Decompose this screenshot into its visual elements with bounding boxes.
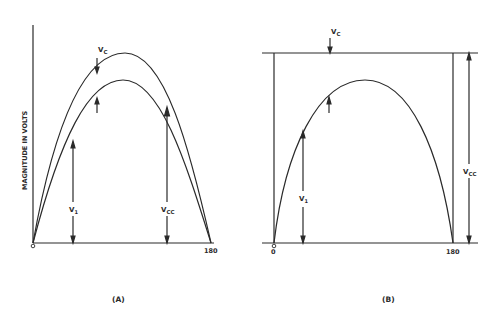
panel-a-gap-arrowhead bbox=[95, 98, 99, 104]
panel-a-vcc-arrowhead-top bbox=[165, 107, 170, 116]
panel-b-vc-arrowhead bbox=[328, 47, 332, 53]
panel-a-v1-arrowhead-bottom bbox=[71, 236, 75, 243]
panel-b-x-tick-0: 0 bbox=[271, 248, 276, 256]
panel-b-caption: (B) bbox=[382, 295, 395, 304]
panel-b bbox=[262, 38, 478, 248]
panel-a-vc-label: VC bbox=[98, 46, 107, 55]
panel-b-vc-label: VC bbox=[331, 28, 340, 37]
panel-a-x-tick-180: 180 bbox=[204, 247, 218, 255]
panel-b-v1-arrowhead-bottom bbox=[301, 236, 305, 243]
panel-a-vcc-arrowhead-bottom bbox=[165, 236, 169, 243]
panel-a-caption: (A) bbox=[112, 295, 125, 304]
panel-a-vc-arrowhead bbox=[95, 67, 99, 73]
panel-a-y-axis-label: MAGNITUDE IN VOLTS bbox=[21, 110, 29, 190]
panel-a bbox=[31, 25, 214, 248]
diagram-canvas: MAGNITUDE IN VOLTS VC V1 VCC 180 (A) bbox=[0, 0, 490, 315]
panel-a-v1-curve bbox=[33, 80, 211, 243]
panel-b-gap-arrowhead bbox=[327, 97, 331, 104]
panel-b-v1-curve bbox=[274, 80, 453, 243]
panel-a-origin-marker bbox=[31, 244, 35, 248]
panel-b-v1-arrowhead-top bbox=[301, 131, 305, 138]
panel-b-vcc-arrowhead-bottom bbox=[467, 236, 471, 243]
panel-b-x-tick-180: 180 bbox=[446, 248, 460, 256]
panel-b-vcc-arrowhead-top bbox=[467, 53, 471, 60]
panel-a-v1-arrowhead-top bbox=[71, 141, 75, 148]
panel-a-vc-curve bbox=[33, 53, 211, 243]
